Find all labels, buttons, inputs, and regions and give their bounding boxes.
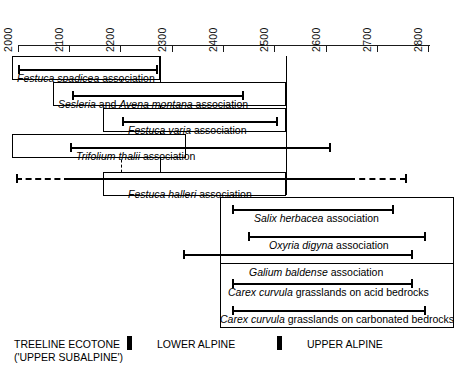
axis-tick-label-2000: 2000 <box>2 27 14 52</box>
axis-tick-2100 <box>69 45 70 52</box>
range-bar-galium-baldense <box>183 254 412 256</box>
range-cap-left-oxyria-digyna <box>248 232 250 241</box>
range-bar-oxyria-digyna <box>248 236 425 238</box>
legend-treeline-ecotone-line2: ('UPPER SUBALPINE') <box>14 351 123 364</box>
axis-tick-label-2600: 2600 <box>310 27 322 52</box>
zone-boundary-2520 <box>286 56 287 195</box>
label-suffix: association <box>191 124 246 136</box>
legend-upper-alpine: UPPER ALPINE <box>307 338 383 351</box>
axis-tick-label-2100: 2100 <box>53 27 65 52</box>
axis-tick-2200 <box>120 45 121 52</box>
range-cap-right-festuca-varia <box>276 117 278 126</box>
axis-tick-2700 <box>377 45 378 52</box>
taxon-name-1: Sesleria <box>58 98 96 110</box>
row-label-oxyria-digyna: Oxyria digyna association <box>269 239 389 251</box>
range-cap-left-festuca-halleri <box>16 174 18 183</box>
axis-tick-2800 <box>428 45 429 52</box>
range-cap-right-festuca-halleri <box>405 174 407 183</box>
range-cap-right-galium-baldense <box>411 250 413 259</box>
axis-tick-label-2400: 2400 <box>207 27 219 52</box>
legend-separator-1 <box>127 336 132 350</box>
range-bar-festuca-halleri <box>68 178 351 180</box>
range-cap-right-festuca-spadicea <box>156 65 158 74</box>
label-suffix: grasslands on carbonated bedrocks <box>285 313 454 325</box>
axis-tick-label-2300: 2300 <box>156 27 168 52</box>
range-bar-trifolium-thalii <box>70 147 330 149</box>
range-bar-sesleria-avena <box>72 95 243 97</box>
range-bar-festuca-spadicea <box>18 69 157 71</box>
zone-legend: TREELINE ECOTONE ('UPPER SUBALPINE') LOW… <box>14 336 454 370</box>
axis-tick-label-2700: 2700 <box>361 27 373 52</box>
taxon-name: Carex curvula <box>228 286 293 298</box>
row-label-salix-herbacea: Salix herbacea association <box>254 212 379 224</box>
range-cap-left-trifolium-thalii <box>70 143 72 152</box>
range-bar-carex-acid <box>232 283 412 285</box>
axis-tick-2600 <box>326 45 327 52</box>
range-bar-carex-carbonated <box>232 310 425 312</box>
row-label-carex-acid: Carex curvula grasslands on acid bedrock… <box>228 286 429 298</box>
axis-tick-2400 <box>223 45 224 52</box>
label-suffix: association <box>140 150 195 162</box>
label-suffix: association <box>323 212 378 224</box>
taxon-name: Salix herbacea <box>254 212 323 224</box>
taxon-name: Festuca halleri <box>128 188 196 200</box>
range-bar-festuca-varia <box>122 121 277 123</box>
taxon-name: Oxyria digyna <box>269 239 333 251</box>
taxon-name: Galium baldense <box>249 266 328 278</box>
axis-tick-label-2800: 2800 <box>412 27 424 52</box>
range-cap-right-salix-herbacea <box>392 205 394 214</box>
range-bar-salix-herbacea <box>232 209 393 211</box>
range-cap-right-oxyria-digyna <box>424 232 426 241</box>
legend-treeline-ecotone-line1: TREELINE ECOTONE <box>14 338 120 351</box>
label-suffix: grasslands on acid bedrocks <box>293 286 429 298</box>
axis-tick-label-2200: 2200 <box>104 27 116 52</box>
taxon-name: Trifolium thalii <box>76 150 140 162</box>
row-label-galium-baldense: Galium baldense association <box>249 266 383 278</box>
range-cap-left-festuca-varia <box>122 117 124 126</box>
legend-lower-alpine: LOWER ALPINE <box>157 338 235 351</box>
row-label-trifolium-thalii: Trifolium thalii association <box>76 150 195 162</box>
label-suffix: association <box>328 266 383 278</box>
group-box-divider <box>220 263 454 264</box>
altitudinal-zonation-diagram: 2000 2100 2200 2300 2400 2500 2600 2700 … <box>0 0 458 374</box>
range-cap-left-salix-herbacea <box>232 205 234 214</box>
axis-tick-2500 <box>274 45 275 52</box>
row-label-carex-carbonated: Carex curvula grasslands on carbonated b… <box>220 313 454 325</box>
axis-tick-2300 <box>172 45 173 52</box>
legend-separator-2 <box>277 336 282 350</box>
range-cap-right-trifolium-thalii <box>329 143 331 152</box>
label-suffix: association <box>333 239 388 251</box>
range-cap-left-galium-baldense <box>183 250 185 259</box>
axis-tick-2000 <box>18 45 19 52</box>
axis-tick-label-2500: 2500 <box>258 27 270 52</box>
range-bar-dashed-right-festuca-halleri <box>349 178 406 180</box>
range-bar-dashed-left-festuca-halleri <box>16 178 70 180</box>
taxon-name: Carex curvula <box>220 313 285 325</box>
